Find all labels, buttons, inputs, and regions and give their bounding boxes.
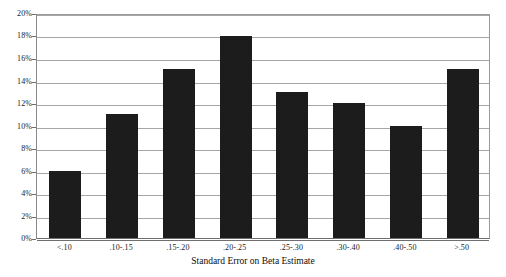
bar-series [37,15,489,238]
bar-chart: 20%18%16%14%12%10%8%6%4%2%0% <.10.10-.15… [0,0,506,277]
bar[interactable] [163,69,195,238]
y-axis-tick-label: 18% [0,32,32,40]
bar[interactable] [447,69,479,238]
bar[interactable] [276,92,308,238]
x-axis-title: Standard Error on Beta Estimate [0,255,506,267]
bar-slot [151,15,208,238]
y-axis-tick-label: 2% [0,213,32,221]
x-axis-tick-label: .15-.20 [150,243,207,253]
y-axis-tick [32,239,36,240]
y-axis-tick-label: 12% [0,100,32,108]
bar-slot [207,15,264,238]
y-axis: 20%18%16%14%12%10%8%6%4%2%0% [0,14,32,239]
y-axis-tick-label: 8% [0,145,32,153]
bar-slot [37,15,94,238]
bar[interactable] [390,126,422,239]
y-axis-tick-label: 14% [0,78,32,86]
x-axis-tick-label: .25-.30 [263,243,320,253]
x-axis-tick-label: .10-.15 [93,243,150,253]
x-axis-tick-label: .20-.25 [206,243,263,253]
bar[interactable] [333,103,365,238]
x-axis-tick-label: .30-.40 [320,243,377,253]
y-axis-tick-label: 16% [0,55,32,63]
plot-area [36,14,490,239]
y-axis-tick-label: 6% [0,168,32,176]
y-axis-tick-label: 10% [0,123,32,131]
bar[interactable] [220,36,252,239]
gridline [37,240,489,241]
y-axis-tick-label: 20% [0,10,32,18]
bar[interactable] [106,114,138,238]
bar-slot [264,15,321,238]
x-axis-tick-label: <.10 [36,243,93,253]
bar[interactable] [49,171,81,239]
y-axis-tick-label: 0% [0,235,32,243]
bar-slot [321,15,378,238]
bar-slot [94,15,151,238]
x-axis-tick-label: >.50 [433,243,490,253]
y-axis-tick-label: 4% [0,190,32,198]
bar-slot [378,15,435,238]
bar-slot [434,15,491,238]
x-axis-tick-label: .40-.50 [377,243,434,253]
